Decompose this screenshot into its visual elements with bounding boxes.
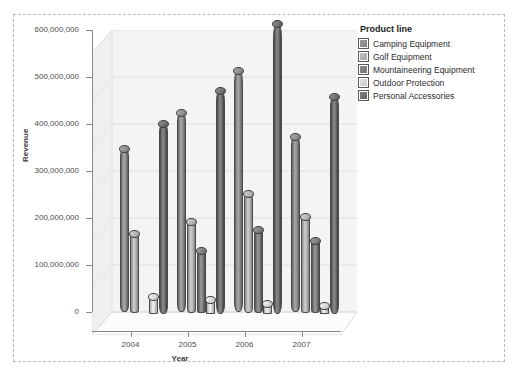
bar-2005-golf-equipment bbox=[187, 221, 196, 313]
bar-2005-outdoor-protection bbox=[206, 299, 215, 314]
bar-top-cap bbox=[119, 145, 130, 153]
x-axis-tick bbox=[302, 331, 303, 337]
legend-item[interactable]: Golf Equipment bbox=[358, 51, 503, 62]
x-axis-tick-label: 2006 bbox=[225, 340, 265, 349]
legend-label: Outdoor Protection bbox=[373, 78, 444, 88]
x-axis-tick bbox=[131, 331, 132, 337]
bar-body bbox=[244, 193, 253, 313]
bar-top-cap bbox=[243, 190, 254, 198]
legend: Product line Camping EquipmentGolf Equip… bbox=[358, 24, 503, 103]
y-axis-line bbox=[92, 30, 93, 312]
x-axis-tick-label: 2004 bbox=[111, 340, 151, 349]
y-axis-tick-label: 200,000,000 bbox=[35, 214, 80, 222]
bar-2004-outdoor-protection bbox=[149, 296, 158, 314]
x-axis-tick bbox=[245, 331, 246, 337]
bar-body bbox=[130, 233, 139, 313]
bar-top-cap bbox=[310, 237, 321, 245]
bar-2004-personal-accessories bbox=[159, 123, 168, 315]
x-axis-title: Year bbox=[0, 354, 360, 363]
bar-body bbox=[301, 216, 310, 312]
bar-top-cap bbox=[129, 230, 140, 238]
bar-2006-golf-equipment bbox=[244, 193, 253, 313]
legend-item[interactable]: Camping Equipment bbox=[358, 38, 503, 49]
legend-swatch-icon bbox=[358, 90, 369, 101]
y-axis-tick-label: 600,000,000 bbox=[35, 26, 80, 34]
y-axis-tick bbox=[86, 77, 92, 78]
y-axis-tick-label: 400,000,000 bbox=[35, 120, 80, 128]
bar-body bbox=[254, 229, 263, 314]
bar-top-cap bbox=[329, 93, 340, 101]
bar-top-cap bbox=[205, 296, 216, 304]
plot-area bbox=[92, 30, 357, 335]
bar-2005-mountaineering-equipment bbox=[197, 250, 206, 313]
bar-body bbox=[234, 70, 243, 312]
y-axis-tick bbox=[86, 124, 92, 125]
bar-body bbox=[330, 96, 339, 315]
y-axis-tick bbox=[86, 312, 92, 313]
legend-item[interactable]: Mountaineering Equipment bbox=[358, 64, 503, 75]
bar-2005-personal-accessories bbox=[216, 90, 225, 315]
bar-top-cap bbox=[272, 20, 283, 28]
bar-2006-outdoor-protection bbox=[263, 303, 272, 313]
bar-2005-camping-equipment bbox=[177, 112, 186, 312]
y-axis-tick-label: 100,000,000 bbox=[35, 261, 80, 269]
y-axis-tick bbox=[86, 265, 92, 266]
bar-2004-camping-equipment bbox=[120, 148, 129, 313]
y-axis-title: Revenue bbox=[21, 129, 30, 162]
bar-2006-mountaineering-equipment bbox=[254, 229, 263, 314]
legend-swatch-icon bbox=[358, 77, 369, 88]
y-axis-tick-label: 0 bbox=[75, 308, 79, 316]
bar-2007-outdoor-protection bbox=[320, 305, 329, 313]
x-axis-line bbox=[92, 331, 341, 332]
y-axis-tick-labels: 0100,000,000200,000,000300,000,000400,00… bbox=[0, 0, 88, 391]
bar-top-cap bbox=[158, 120, 169, 128]
legend-items: Camping EquipmentGolf EquipmentMountaine… bbox=[358, 38, 503, 101]
y-axis-tick bbox=[86, 171, 92, 172]
bar-body bbox=[311, 240, 320, 313]
legend-label: Golf Equipment bbox=[373, 52, 432, 62]
bar-body bbox=[177, 112, 186, 312]
legend-label: Personal Accessories bbox=[373, 91, 454, 101]
bar-top-cap bbox=[186, 218, 197, 226]
bar-top-cap bbox=[290, 133, 301, 141]
x-axis-tick-label: 2007 bbox=[282, 340, 322, 349]
x-axis-tick bbox=[188, 331, 189, 337]
y-axis-tick-label: 500,000,000 bbox=[35, 73, 80, 81]
bar-top-cap bbox=[215, 87, 226, 95]
bar-top-cap bbox=[253, 226, 264, 234]
bar-body bbox=[187, 221, 196, 313]
legend-item[interactable]: Personal Accessories bbox=[358, 90, 503, 101]
bar-2007-golf-equipment bbox=[301, 216, 310, 312]
y-axis-tick-label: 300,000,000 bbox=[35, 167, 80, 175]
legend-swatch-icon bbox=[358, 51, 369, 62]
bar-2004-golf-equipment bbox=[130, 233, 139, 313]
bar-2006-personal-accessories bbox=[273, 23, 282, 314]
bar-2007-personal-accessories bbox=[330, 96, 339, 315]
chart-screenshot: 0100,000,000200,000,000300,000,000400,00… bbox=[0, 0, 519, 391]
bar-body bbox=[291, 136, 300, 312]
legend-swatch-icon bbox=[358, 38, 369, 49]
bar-body bbox=[216, 90, 225, 315]
legend-label: Mountaineering Equipment bbox=[373, 65, 475, 75]
legend-label: Camping Equipment bbox=[373, 39, 450, 49]
legend-title: Product line bbox=[360, 24, 503, 34]
bar-2007-mountaineering-equipment bbox=[311, 240, 320, 313]
bar-2007-camping-equipment bbox=[291, 136, 300, 312]
bar-top-cap bbox=[233, 67, 244, 75]
bar-body bbox=[159, 123, 168, 315]
x-axis-tick-label: 2005 bbox=[168, 340, 208, 349]
y-axis-tick bbox=[86, 218, 92, 219]
bar-body bbox=[273, 23, 282, 314]
bar-body bbox=[120, 148, 129, 313]
bar-body bbox=[197, 250, 206, 313]
legend-item[interactable]: Outdoor Protection bbox=[358, 77, 503, 88]
bar-top-cap bbox=[196, 247, 207, 255]
legend-swatch-icon bbox=[358, 64, 369, 75]
bars-layer bbox=[92, 30, 357, 335]
y-axis-tick bbox=[86, 30, 92, 31]
bar-2006-camping-equipment bbox=[234, 70, 243, 312]
